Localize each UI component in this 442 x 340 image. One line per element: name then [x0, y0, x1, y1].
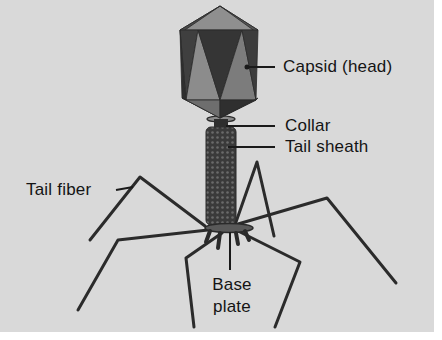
capsid [180, 6, 258, 118]
collar-label: Collar [285, 116, 331, 135]
tail-fiber-right [238, 198, 396, 283]
bacteriophage-diagram: Capsid (head) Collar Tail sheath Tail fi… [0, 0, 442, 340]
capsid-label: Capsid (head) [283, 57, 392, 76]
tail-fiber-label: Tail fiber [26, 180, 91, 199]
tail-sheath-label: Tail sheath [285, 137, 368, 156]
tail-fiber-upper-left [90, 177, 205, 240]
base-plate-label-line2: plate [206, 297, 258, 316]
base-plate-label-line1: Base [206, 275, 258, 294]
tail-sheath [206, 127, 236, 225]
